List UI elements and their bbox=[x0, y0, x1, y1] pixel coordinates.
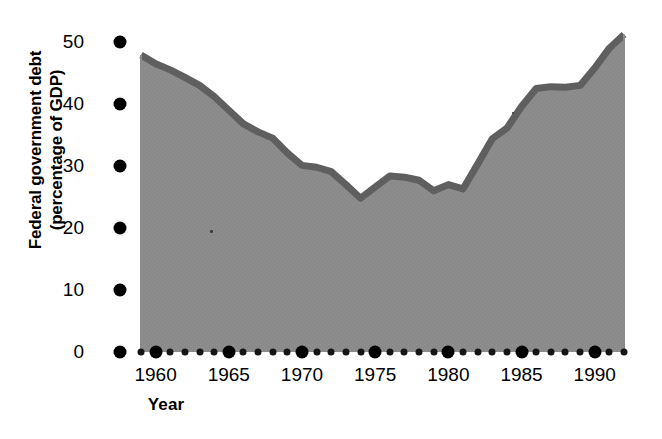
x-axis-tick-dot-minor bbox=[269, 349, 276, 356]
x-axis-tick-dot-major bbox=[296, 346, 309, 359]
x-axis-tick-label: 1990 bbox=[555, 364, 635, 386]
x-axis-tick-dot-minor bbox=[533, 349, 540, 356]
x-axis-tick-label: 1975 bbox=[335, 364, 415, 386]
x-axis-tick-dot-minor bbox=[386, 349, 393, 356]
x-axis-tick-dot-minor bbox=[167, 349, 174, 356]
x-axis-tick-dot-minor bbox=[284, 349, 291, 356]
x-axis-tick-dot-major bbox=[149, 346, 162, 359]
chart-figure: Federal government debt (percentage of G… bbox=[0, 0, 662, 439]
x-axis-tick-dot-minor bbox=[460, 349, 467, 356]
x-axis-tick-dot-minor bbox=[562, 349, 569, 356]
x-axis-tick-dot-minor bbox=[328, 349, 335, 356]
x-axis-tick-dot-minor bbox=[577, 349, 584, 356]
x-axis-tick-label: 1970 bbox=[262, 364, 342, 386]
x-axis-tick-dot-major bbox=[222, 346, 235, 359]
scan-speck bbox=[512, 112, 514, 114]
x-axis-tick-dot-minor bbox=[489, 349, 496, 356]
x-axis-tick-dot-minor bbox=[211, 349, 218, 356]
x-axis-tick-label: 1985 bbox=[482, 364, 562, 386]
x-axis-tick-dot-minor bbox=[196, 349, 203, 356]
x-axis-tick-dot-minor bbox=[416, 349, 423, 356]
x-axis-tick-dot-minor bbox=[547, 349, 554, 356]
x-axis-tick-label: 1960 bbox=[116, 364, 196, 386]
x-axis-tick-dot-minor bbox=[138, 349, 145, 356]
x-axis-tick-dot-major bbox=[442, 346, 455, 359]
x-axis-tick-dot-minor bbox=[255, 349, 262, 356]
x-axis-tick-dot-minor bbox=[503, 349, 510, 356]
x-axis-tick-dot-minor bbox=[342, 349, 349, 356]
x-axis-tick-label: 1980 bbox=[408, 364, 488, 386]
x-axis-tick-dot-minor bbox=[621, 349, 628, 356]
x-axis-tick-label: 1965 bbox=[189, 364, 269, 386]
x-axis-tick-dot-minor bbox=[474, 349, 481, 356]
x-axis-title: Year bbox=[148, 395, 185, 415]
scan-speck bbox=[210, 230, 213, 233]
x-axis-tick-dot-minor bbox=[181, 349, 188, 356]
x-axis-tick-dot-minor bbox=[240, 349, 247, 356]
x-axis-tick-dot-major bbox=[515, 346, 528, 359]
x-axis-tick-dot-minor bbox=[606, 349, 613, 356]
x-axis-tick-dot-major bbox=[369, 346, 382, 359]
x-axis-tick-dot-minor bbox=[313, 349, 320, 356]
x-axis-tick-dot-major bbox=[588, 346, 601, 359]
x-axis-tick-dot-minor bbox=[401, 349, 408, 356]
x-axis-tick-dot-minor bbox=[430, 349, 437, 356]
area-fill bbox=[141, 35, 624, 352]
x-axis-tick-dot-minor bbox=[357, 349, 364, 356]
